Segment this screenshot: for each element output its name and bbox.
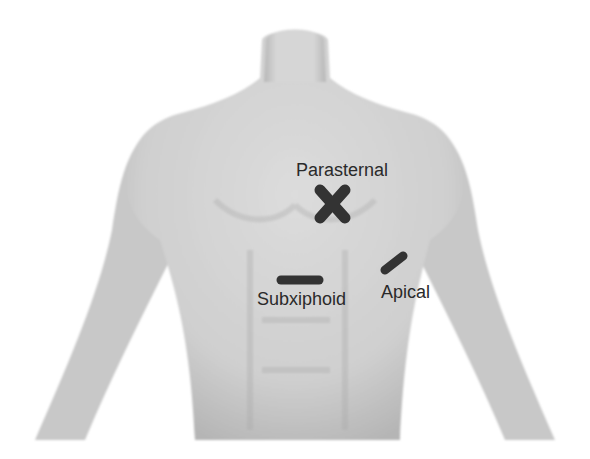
apical-label: Apical: [381, 283, 430, 301]
body-silhouette: [35, 30, 555, 441]
subxiphoid-label: Subxiphoid: [257, 290, 346, 308]
parasternal-label: Parasternal: [296, 161, 388, 179]
torso-diagram: Parasternal Subxiphoid Apical: [0, 0, 590, 459]
torso-illustration: [0, 0, 590, 459]
